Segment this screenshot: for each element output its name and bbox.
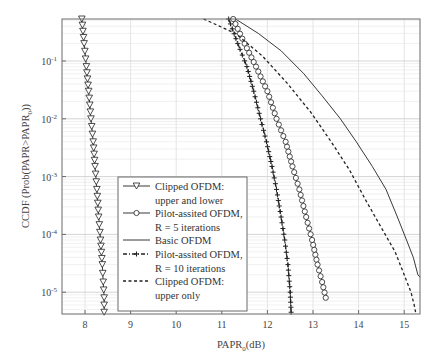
- circle-marker: [233, 21, 238, 26]
- circle-marker: [276, 122, 281, 127]
- x-tick-label: 12: [262, 319, 272, 330]
- circle-marker: [321, 285, 326, 290]
- circle-marker: [265, 89, 270, 94]
- circle-marker: [297, 187, 302, 192]
- legend-label: Clipped OFDM:: [155, 181, 224, 192]
- circle-marker: [304, 214, 309, 219]
- legend-label: Pilot-assited OFDM,: [155, 208, 243, 219]
- circle-marker: [235, 26, 240, 31]
- circle-marker: [268, 100, 273, 105]
- circle-marker: [305, 220, 310, 225]
- circle-marker: [298, 192, 303, 197]
- circle-marker: [293, 175, 298, 180]
- y-tick-label: 10-4: [41, 228, 57, 240]
- legend-label: R = 5 iterations: [155, 222, 220, 233]
- x-tick-label: 8: [83, 319, 88, 330]
- circle-marker: [299, 198, 304, 203]
- circle-marker: [316, 268, 321, 273]
- ccdf-chart: 89101112131415 10-110-210-310-410-5 PAPR…: [0, 0, 442, 362]
- legend-label: R = 10 iterations: [155, 263, 225, 274]
- circle-marker: [278, 128, 283, 133]
- y-tick-label: 10-2: [41, 113, 57, 125]
- circle-marker: [263, 84, 268, 89]
- circle-marker: [313, 252, 318, 257]
- circle-marker: [267, 94, 272, 99]
- circle-marker: [302, 209, 307, 214]
- x-tick-label: 15: [399, 319, 409, 330]
- circle-marker: [258, 74, 263, 79]
- circle-marker: [315, 262, 320, 267]
- x-tick-label: 10: [171, 319, 181, 330]
- circle-marker: [286, 149, 291, 154]
- circle-marker: [320, 279, 325, 284]
- x-tick-label: 13: [308, 319, 318, 330]
- circle-marker: [287, 154, 292, 159]
- circle-marker: [134, 210, 139, 215]
- circle-marker: [311, 242, 316, 247]
- circle-marker: [274, 116, 279, 121]
- legend-label: upper and lower: [155, 195, 224, 206]
- circle-marker: [295, 181, 300, 186]
- legend-label: Basic OFDM: [155, 235, 212, 246]
- circle-marker: [253, 64, 258, 69]
- circle-marker: [308, 232, 313, 237]
- circle-marker: [272, 111, 277, 116]
- circle-marker: [260, 79, 265, 84]
- circle-marker: [292, 170, 297, 175]
- x-tick-label: 14: [354, 319, 364, 330]
- circle-marker: [307, 226, 312, 231]
- y-tick-label: 10-5: [41, 286, 57, 298]
- circle-marker: [314, 257, 319, 262]
- x-tick-label: 9: [128, 319, 133, 330]
- circle-marker: [301, 203, 306, 208]
- y-tick-label: 10-1: [41, 55, 57, 67]
- circle-marker: [312, 247, 317, 252]
- legend: Clipped OFDM:upper and lowerPilot-assite…: [118, 177, 247, 311]
- y-axis-label: CCDF (Prob(PAPR>PAPR0)): [20, 104, 34, 228]
- circle-marker: [237, 31, 242, 36]
- circle-marker: [284, 144, 289, 149]
- legend-label: Clipped OFDM:: [155, 276, 224, 287]
- y-tick-label: 10-3: [41, 171, 57, 183]
- circle-marker: [281, 133, 286, 138]
- circle-marker: [290, 164, 295, 169]
- x-axis-label: PAPR0(dB): [217, 339, 266, 353]
- circle-marker: [270, 105, 275, 110]
- x-tick-label: 11: [217, 319, 227, 330]
- legend-label: Pilot-assited OFDM,: [155, 249, 243, 260]
- legend-label: upper only: [155, 290, 201, 301]
- circle-marker: [318, 274, 323, 279]
- circle-marker: [323, 295, 328, 300]
- circle-marker: [322, 290, 327, 295]
- circle-marker: [283, 139, 288, 144]
- circle-marker: [256, 69, 261, 74]
- circle-marker: [289, 159, 294, 164]
- circle-marker: [309, 237, 314, 242]
